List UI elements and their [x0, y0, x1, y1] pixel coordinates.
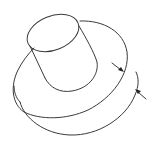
diagram-canvas	[0, 0, 157, 143]
part-drawing	[0, 0, 157, 143]
base-disc-top-edge	[13, 21, 127, 118]
arrow-outer-icon	[135, 89, 146, 99]
arrow-inner-icon	[112, 63, 124, 72]
boss-right-side	[45, 26, 97, 91]
base-disc-bottom-edge	[20, 72, 138, 135]
